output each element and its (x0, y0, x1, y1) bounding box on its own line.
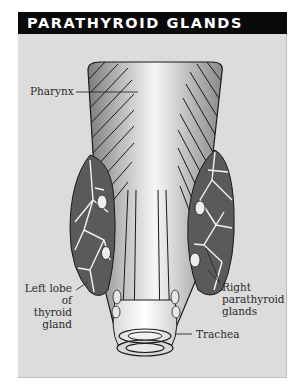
trachea-shape (112, 290, 180, 356)
parathyroid-illustration (0, 0, 300, 391)
label-left-lobe-line1: Left lobe (22, 282, 72, 294)
label-right-parathyroid-line2: parathyroid (222, 293, 285, 305)
label-right-parathyroid-line3: glands (222, 305, 285, 317)
label-left-lobe-line2: of thyroid (22, 294, 72, 318)
label-left-lobe-line3: gland (22, 318, 72, 330)
label-left-lobe: Left lobe of thyroid gland (22, 282, 72, 330)
label-right-parathyroid: Right parathyroid glands (222, 281, 285, 317)
left-thyroid-lobe (70, 155, 115, 296)
label-right-parathyroid-line1: Right (222, 281, 285, 293)
label-trachea: Trachea (196, 328, 239, 340)
label-pharynx: Pharynx (30, 85, 74, 97)
